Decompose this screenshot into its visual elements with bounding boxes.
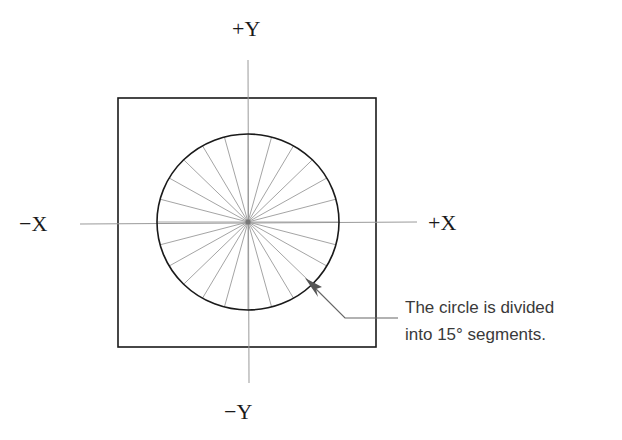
spoke-line: [248, 222, 312, 284]
spoke-line: [224, 137, 248, 222]
spoke-line: [224, 222, 248, 307]
callout-leader-line: [312, 285, 398, 318]
spoke-line: [248, 160, 312, 222]
spoke-line: [184, 222, 248, 284]
spoke-line: [160, 222, 248, 245]
spoke-line: [248, 222, 294, 298]
spoke-line: [160, 199, 248, 222]
minus-x-label: −X: [19, 213, 47, 235]
callout-arrowhead-icon: [305, 278, 322, 297]
spoke-line: [248, 146, 294, 222]
spoke-line: [248, 199, 336, 222]
callout-line-2: into 15° segments.: [405, 321, 546, 348]
minus-y-label: −Y: [224, 401, 252, 423]
plus-x-label: +X: [428, 212, 456, 234]
diagram-canvas: +Y −Y −X +X The circle is divided into 1…: [0, 0, 622, 440]
spoke-line: [169, 178, 248, 222]
spoke-line: [248, 137, 272, 222]
spoke-line: [203, 222, 249, 298]
spoke-line: [248, 222, 327, 266]
spoke-line: [248, 222, 336, 245]
spoke-line: [169, 222, 248, 266]
center-point: [246, 220, 251, 225]
spoke-line: [248, 178, 327, 222]
spoke-line: [248, 222, 272, 307]
spoke-line: [184, 160, 248, 222]
spoke-line: [203, 146, 249, 222]
plus-y-label: +Y: [232, 18, 260, 40]
callout-line-1: The circle is divided: [405, 294, 554, 321]
diagram-svg: [0, 0, 622, 440]
